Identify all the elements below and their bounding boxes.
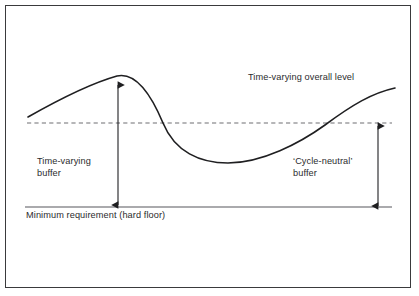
label-cycle-neutral-buffer-line2: buffer [293, 168, 317, 178]
figure-root: Time-varying overall level Time-varyingb… [0, 0, 419, 296]
diagram-canvas [0, 0, 419, 296]
label-minimum-requirement: Minimum requirement (hard floor) [26, 210, 165, 222]
label-time-varying-buffer-line2: buffer [37, 168, 61, 178]
label-cycle-neutral-buffer: ‘Cycle-neutral’buffer [293, 156, 353, 179]
label-cycle-neutral-buffer-line1: ‘Cycle-neutral’ [293, 156, 353, 166]
label-time-varying-overall-level: Time-varying overall level [248, 72, 354, 84]
label-time-varying-buffer-line1: Time-varying [37, 156, 91, 166]
wave-curve [28, 75, 395, 163]
label-time-varying-buffer: Time-varyingbuffer [37, 156, 91, 179]
